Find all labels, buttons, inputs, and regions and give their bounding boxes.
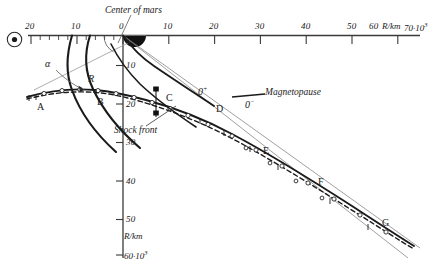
asymptote-lines bbox=[34, 36, 420, 259]
y-tick-label-20: 20 bbox=[126, 99, 136, 109]
point-label-B: B bbox=[97, 96, 104, 107]
radius-R-label: R bbox=[88, 73, 94, 84]
y-tick-label-40: 40 bbox=[126, 176, 136, 186]
x-tick-label-10: 10 bbox=[163, 21, 173, 31]
alpha-angle-arc bbox=[104, 36, 114, 52]
point-label-C: C bbox=[166, 92, 173, 103]
y-axis-unit-label: R/km bbox=[124, 231, 143, 241]
y-tick-label-30: 30 bbox=[126, 137, 136, 147]
point-label-D-minus: 0− bbox=[245, 98, 254, 110]
alpha-angle-label: α bbox=[45, 58, 50, 69]
point-label-D: D bbox=[216, 103, 223, 114]
x-axis-unit-label: R/km bbox=[382, 21, 401, 31]
shock-front-label: Shock front bbox=[114, 125, 157, 135]
cross-tick-markers bbox=[36, 95, 368, 230]
y-tick-label-50: 50 bbox=[126, 214, 136, 224]
x-tick-label-30: 30 bbox=[255, 21, 265, 31]
y-axis bbox=[116, 36, 123, 259]
x-axis-exponent-label: 70·103 bbox=[404, 21, 428, 33]
x-tick-label-50: 50 bbox=[347, 21, 357, 31]
x-tick-label-20: 20 bbox=[209, 21, 219, 31]
data-point-markers bbox=[42, 87, 388, 234]
point-label-G: G bbox=[382, 217, 389, 228]
x-tick-label-origin: 0 bbox=[119, 21, 124, 31]
y-axis-bottom-label: 60·103 bbox=[124, 249, 148, 261]
x-tick-label-left-20: 20 bbox=[25, 21, 35, 31]
point-label-A: A bbox=[37, 101, 44, 112]
x-tick-label-left-10: 10 bbox=[71, 21, 81, 31]
magnetopause-label: Magnetopause bbox=[265, 87, 321, 97]
point-label-F: F bbox=[318, 176, 324, 187]
sun-symbol bbox=[7, 32, 21, 46]
center-of-mars-label: Center of mars bbox=[105, 5, 162, 15]
point-label-E: E bbox=[263, 145, 269, 156]
x-axis bbox=[28, 36, 420, 45]
mars-hemisphere bbox=[112, 36, 147, 48]
x-tick-label-40: 40 bbox=[301, 21, 311, 31]
point-label-D-plus: 0+ bbox=[198, 85, 207, 97]
mars-magnetopause-figure bbox=[0, 0, 433, 270]
y-tick-label-10: 10 bbox=[126, 60, 136, 70]
x-tick-label-60: 60 bbox=[369, 21, 379, 31]
